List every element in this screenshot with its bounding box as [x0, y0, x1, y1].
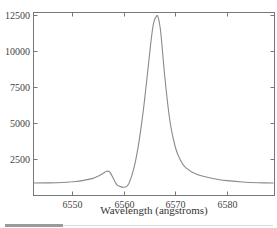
spectrum-line: [34, 16, 274, 188]
spectrum-chart: 2500500075001000012500 6550656065706580 …: [0, 0, 277, 228]
y-axis-tick-labels: 2500500075001000012500: [5, 10, 30, 165]
y-tick-label: 2500: [10, 154, 30, 165]
x-tick-label: 6580: [218, 199, 238, 210]
axis-ticks: [34, 13, 275, 196]
y-tick-label: 12500: [5, 10, 30, 21]
x-tick-label: 6550: [63, 199, 83, 210]
x-axis-title: Wavelength (angstroms): [100, 204, 208, 217]
horizontal-scrollbar-thumb[interactable]: [5, 224, 63, 227]
y-tick-label: 5000: [10, 118, 30, 129]
y-tick-label: 10000: [5, 46, 30, 57]
plot-frame: [34, 13, 275, 196]
y-tick-label: 7500: [10, 82, 30, 93]
